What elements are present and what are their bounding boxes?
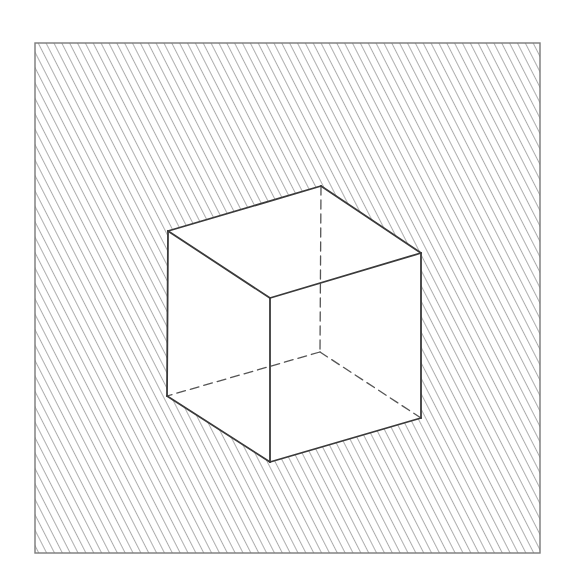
cube-edge xyxy=(167,231,168,396)
cube-hatched-square-diagram xyxy=(0,0,572,578)
cube xyxy=(167,186,421,462)
